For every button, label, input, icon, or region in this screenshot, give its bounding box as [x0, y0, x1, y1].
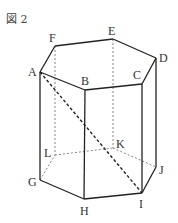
vertex-labels: ABCDEFGHIJKL — [28, 24, 168, 218]
solid-edge-FA — [40, 46, 55, 72]
solid-edge-EF — [55, 39, 113, 46]
vertex-label-E: E — [108, 24, 115, 38]
solid-edge-DE — [113, 39, 156, 58]
vertex-label-J: J — [159, 163, 164, 177]
solid-edge-BH — [84, 90, 85, 199]
vertex-label-I: I — [139, 197, 143, 211]
solid-edge-CD — [142, 58, 156, 84]
solid-edge-GH — [40, 180, 84, 199]
vertex-label-D: D — [159, 51, 168, 65]
vertex-label-C: C — [133, 68, 141, 82]
vertex-label-A: A — [28, 65, 37, 79]
solid-edge-BC — [85, 84, 142, 90]
vertex-label-G: G — [28, 175, 37, 189]
vertex-label-K: K — [116, 137, 125, 151]
visible-edges — [40, 39, 156, 199]
vertex-label-H: H — [80, 204, 89, 218]
vertex-label-L: L — [44, 146, 51, 160]
diagonal-edge-AI — [40, 72, 142, 193]
vertex-label-F: F — [49, 31, 56, 45]
solid-edge-HI — [84, 193, 142, 199]
solid-edge-IJ — [142, 167, 156, 193]
hexagonal-prism-diagram: ABCDEFGHIJKL — [0, 0, 178, 223]
diagonal-AI — [40, 72, 142, 193]
vertex-label-B: B — [81, 74, 89, 88]
hidden-edges — [40, 39, 156, 180]
